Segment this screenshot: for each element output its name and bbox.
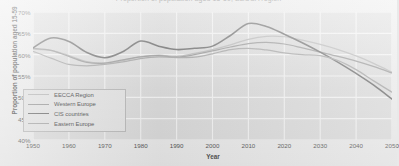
chart-legend: EECCA RegionWestern EuropeCIS countriesE… — [23, 89, 126, 132]
legend-item[interactable]: Eastern Europe — [24, 119, 125, 129]
legend-item[interactable]: CIS countries — [24, 109, 125, 119]
legend-swatch-icon — [28, 104, 49, 105]
y-axis-tick: 60% — [18, 51, 30, 58]
x-axis-tick: 1980 — [134, 142, 148, 149]
x-axis-tick: 2050 — [385, 142, 399, 149]
x-axis-label: Year — [33, 153, 393, 160]
legend-item-label: EECCA Region — [54, 92, 94, 98]
x-axis-tick: 2040 — [349, 142, 363, 149]
y-axis-tick: 65% — [18, 30, 30, 37]
x-axis-tick: 1970 — [98, 142, 112, 149]
x-axis-tick: 2000 — [206, 142, 220, 149]
x-axis-tick: 2030 — [313, 142, 327, 149]
legend-item[interactable]: EECCA Region — [24, 90, 125, 100]
x-axis-tick: 2020 — [277, 142, 291, 149]
y-axis-tick: 70% — [18, 9, 30, 16]
legend-swatch-icon — [28, 123, 49, 124]
legend-swatch-icon — [28, 94, 49, 95]
legend-item-label: Eastern Europe — [54, 121, 94, 127]
x-axis-tick: 1950 — [26, 142, 40, 149]
x-axis-tick: 2010 — [242, 142, 256, 149]
legend-item-label: CIS countries — [54, 111, 89, 117]
y-axis-label: Proportion of population aged 15-59 — [11, 0, 18, 126]
y-axis-tick: 55% — [18, 73, 30, 80]
x-axis-tick: 1960 — [62, 142, 76, 149]
x-axis-tick: 1990 — [170, 142, 184, 149]
legend-item[interactable]: Western Europe — [24, 100, 125, 110]
legend-swatch-icon — [28, 113, 49, 114]
chart-title: Proportion of population aged 15-59, EEC… — [0, 0, 397, 4]
legend-item-label: Western Europe — [54, 101, 96, 107]
